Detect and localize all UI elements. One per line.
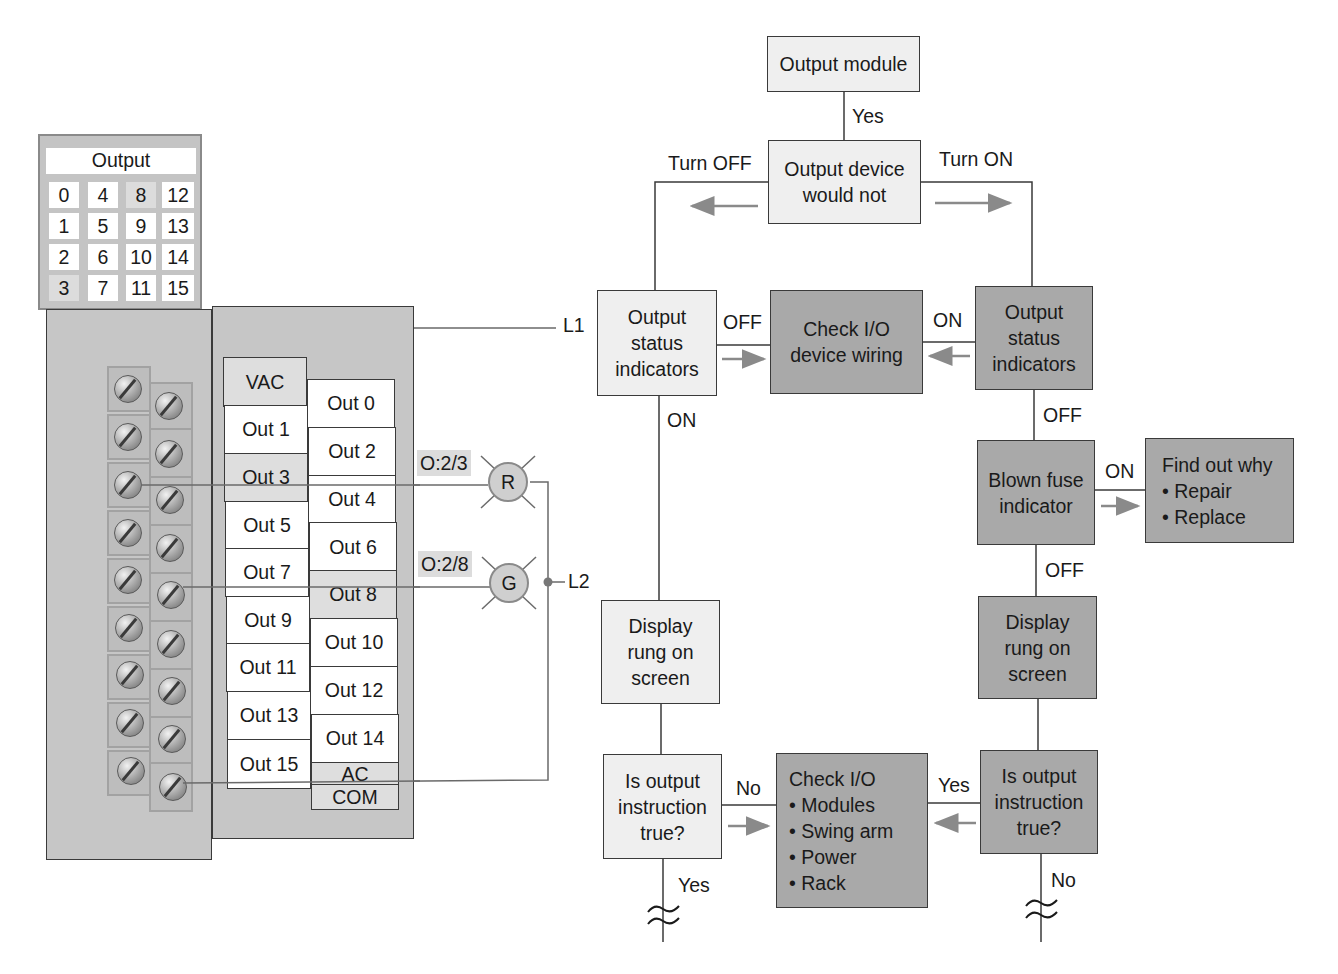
box-text: screen xyxy=(631,665,690,691)
label-yes-bottom-left: Yes xyxy=(678,874,710,896)
box-text: true? xyxy=(1017,815,1061,841)
red-pilot-lamp-icon: R xyxy=(488,462,528,502)
list-item: • Power xyxy=(789,844,857,870)
box-text: Check I/O xyxy=(803,316,890,342)
box-text: Output xyxy=(628,304,687,330)
label-fuse-on: ON xyxy=(1105,460,1134,482)
box-blown-fuse[interactable]: Blown fuse indicator xyxy=(977,440,1095,545)
address-tag-red: O:2/3 xyxy=(417,450,471,476)
box-check-io-wiring[interactable]: Check I/O device wiring xyxy=(770,290,923,394)
box-text: Blown fuse xyxy=(988,467,1083,493)
box-text: true? xyxy=(640,820,684,846)
box-output-status-left[interactable]: Output status indicators xyxy=(597,290,717,396)
box-text: status xyxy=(631,330,683,356)
box-display-rung-right[interactable]: Display rung on screen xyxy=(978,596,1097,699)
label-no-bottom-right: No xyxy=(1051,869,1076,891)
box-text: Output xyxy=(1005,299,1064,325)
box-text: Display xyxy=(629,613,693,639)
box-text: rung on xyxy=(627,639,693,665)
box-text: Is output xyxy=(1002,763,1077,789)
label-off-below-right: OFF xyxy=(1043,404,1082,426)
l1-label: L1 xyxy=(563,314,585,336)
box-text: indicators xyxy=(615,356,698,382)
box-text: instruction xyxy=(618,794,707,820)
list-item: • Replace xyxy=(1162,504,1246,530)
box-output-status-right[interactable]: Output status indicators xyxy=(975,286,1093,390)
label-on-below-left: ON xyxy=(667,409,696,431)
box-display-rung-left[interactable]: Display rung on screen xyxy=(601,600,720,704)
box-text: would not xyxy=(803,182,886,208)
lamp-letter: G xyxy=(501,572,516,595)
box-text: rung on xyxy=(1004,635,1070,661)
list-item: • Repair xyxy=(1162,478,1232,504)
label-no-left: No xyxy=(736,777,761,799)
box-output-module[interactable]: Output module xyxy=(767,36,920,92)
box-text: Display xyxy=(1006,609,1070,635)
box-text: status xyxy=(1008,325,1060,351)
label-on-right: ON xyxy=(933,309,962,331)
list-item: • Rack xyxy=(789,870,846,896)
box-question-right[interactable]: Is output instruction true? xyxy=(980,750,1098,854)
lamp-letter: R xyxy=(501,471,515,494)
label-turn-off: Turn OFF xyxy=(668,152,752,174)
green-pilot-lamp-icon: G xyxy=(489,563,529,603)
list-item: • Swing arm xyxy=(789,818,893,844)
label-yes-right: Yes xyxy=(938,774,970,796)
box-output-device-would-not[interactable]: Output device would not xyxy=(768,140,921,224)
box-text: device wiring xyxy=(790,342,903,368)
box-check-io[interactable]: Check I/O • Modules • Swing arm • Power … xyxy=(776,753,928,908)
box-text: indicators xyxy=(992,351,1075,377)
box-text: indicator xyxy=(999,493,1073,519)
box-text: Find out why xyxy=(1162,452,1273,478)
label-turn-on: Turn ON xyxy=(939,148,1013,170)
box-text: screen xyxy=(1008,661,1067,687)
l2-label: L2 xyxy=(568,570,590,592)
box-text: Check I/O xyxy=(789,766,876,792)
label-yes-top: Yes xyxy=(852,105,884,127)
address-tag-green: O:2/8 xyxy=(418,551,472,577)
label-fuse-off: OFF xyxy=(1045,559,1084,581)
box-text: Output module xyxy=(780,51,908,77)
label-off-left: OFF xyxy=(723,311,762,333)
box-text: Output device xyxy=(784,156,904,182)
box-text: instruction xyxy=(995,789,1084,815)
box-question-left[interactable]: Is output instruction true? xyxy=(603,754,722,859)
list-item: • Modules xyxy=(789,792,875,818)
box-text: Is output xyxy=(625,768,700,794)
box-find-out-why[interactable]: Find out why • Repair • Replace xyxy=(1145,438,1294,543)
